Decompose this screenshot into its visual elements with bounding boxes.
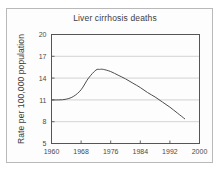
x-tick-label: 1992 xyxy=(162,148,178,155)
y-tick-label: 5 xyxy=(43,140,47,147)
y-tick-label: 11 xyxy=(39,97,46,104)
y-tick-label: 20 xyxy=(39,31,47,38)
plot-area: 5811141720 196019681976198419922000 xyxy=(0,0,221,174)
x-tick-label: 2000 xyxy=(192,148,208,155)
y-tick-label: 17 xyxy=(39,53,47,60)
y-tick-label: 14 xyxy=(39,75,47,82)
x-tick-label: 1976 xyxy=(103,148,119,155)
y-tick-group: 5811141720 xyxy=(39,31,55,147)
gridlines-group xyxy=(52,35,200,144)
chart-figure: Liver cirrhosis deaths Rate per 100,000 … xyxy=(0,0,221,174)
x-tick-label: 1968 xyxy=(73,148,89,155)
x-tick-label: 1960 xyxy=(44,148,60,155)
x-tick-label: 1984 xyxy=(133,148,149,155)
plot-frame xyxy=(52,35,200,144)
data-series-line xyxy=(52,69,185,119)
x-tick-group: 196019681976198419922000 xyxy=(44,141,208,155)
y-tick-label: 8 xyxy=(43,118,47,125)
